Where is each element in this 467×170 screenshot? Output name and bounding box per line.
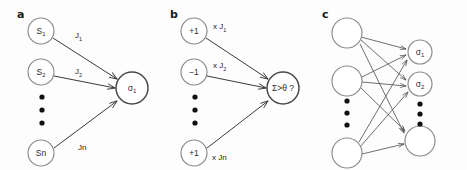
vertical-ellipsis-dot bbox=[344, 98, 349, 103]
figure-canvas: S1S2Snσ1J1J2Jna+1−1+1Σ>θ ?x J1x J2x Jnbσ… bbox=[0, 0, 467, 170]
panel-letter-c: c bbox=[322, 8, 329, 21]
vertical-ellipsis-dot bbox=[39, 94, 44, 99]
output-node: σ1 bbox=[116, 72, 148, 104]
output-node: σ1 bbox=[408, 40, 432, 64]
panel-letter-a: a bbox=[17, 8, 24, 21]
output-node: σ2 bbox=[408, 72, 432, 96]
output-node bbox=[405, 126, 435, 156]
vertical-ellipsis-dot bbox=[39, 120, 44, 125]
connection-arrow bbox=[361, 37, 406, 49]
node-circle bbox=[332, 138, 362, 168]
connection-arrow bbox=[362, 82, 406, 86]
panels-root: S1S2Snσ1J1J2Jna+1−1+1Σ>θ ?x J1x J2x Jnbσ… bbox=[17, 8, 435, 168]
panel-c: σ1σ2c bbox=[322, 8, 435, 168]
panel-b-edges bbox=[206, 38, 268, 148]
vertical-ellipsis-dot bbox=[344, 122, 349, 127]
connection-arrow bbox=[53, 38, 117, 79]
connection-arrow bbox=[360, 44, 404, 133]
input-node: −1 bbox=[181, 59, 207, 85]
weight-label: x Jn bbox=[212, 153, 227, 162]
vertical-ellipsis-dot bbox=[192, 120, 197, 125]
node-circle bbox=[405, 126, 435, 156]
weight-label: x J1 bbox=[213, 22, 226, 33]
connection-arrow bbox=[361, 88, 405, 131]
weight-label: Jn bbox=[78, 143, 86, 152]
input-node: Sn bbox=[28, 140, 54, 166]
connection-arrow bbox=[360, 92, 408, 147]
panel-a: S1S2Snσ1J1J2Jna bbox=[17, 8, 148, 166]
vertical-ellipsis-dot bbox=[417, 121, 422, 126]
node-circle bbox=[332, 18, 362, 48]
vertical-ellipsis-dot bbox=[39, 107, 44, 112]
connection-arrow bbox=[54, 76, 115, 88]
connection-arrow bbox=[207, 101, 268, 148]
node-label: +1 bbox=[189, 148, 199, 158]
weight-label: x J2 bbox=[213, 61, 226, 72]
vertical-ellipsis-dot bbox=[344, 110, 349, 115]
node-label: Σ>θ ? bbox=[272, 83, 294, 93]
connection-arrow bbox=[206, 38, 268, 79]
panel-c-edges bbox=[359, 37, 408, 154]
neural-network-figure: S1S2Snσ1J1J2Jna+1−1+1Σ>θ ?x J1x J2x Jnbσ… bbox=[0, 0, 467, 170]
panel-letter-b: b bbox=[170, 8, 178, 21]
input-node bbox=[332, 138, 362, 168]
connection-arrow bbox=[362, 144, 404, 154]
input-node: S1 bbox=[28, 18, 54, 44]
node-label: −1 bbox=[189, 67, 199, 77]
input-node: +1 bbox=[181, 18, 207, 44]
weight-label: J2 bbox=[75, 67, 82, 78]
input-node: S2 bbox=[28, 59, 54, 85]
node-label: Sn bbox=[36, 148, 47, 158]
node-circle bbox=[332, 66, 362, 96]
node-label: +1 bbox=[189, 26, 199, 36]
connection-arrow bbox=[207, 76, 266, 88]
input-node bbox=[332, 18, 362, 48]
panel-b: +1−1+1Σ>θ ?x J1x J2x Jnb bbox=[170, 8, 299, 166]
vertical-ellipsis-dot bbox=[417, 111, 422, 116]
output-node: Σ>θ ? bbox=[267, 72, 299, 104]
connection-arrow bbox=[54, 101, 117, 148]
vertical-ellipsis-dot bbox=[192, 107, 197, 112]
input-node bbox=[332, 66, 362, 96]
vertical-ellipsis-dot bbox=[417, 101, 422, 106]
vertical-ellipsis-dot bbox=[192, 94, 197, 99]
panel-a-edges bbox=[53, 38, 117, 148]
input-node: +1 bbox=[181, 140, 207, 166]
weight-label: J1 bbox=[75, 31, 82, 42]
